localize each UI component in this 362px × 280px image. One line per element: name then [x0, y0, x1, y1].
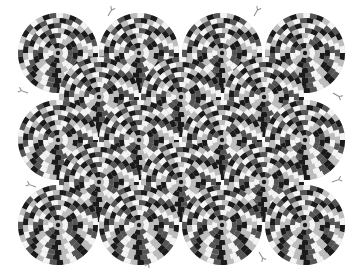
disc-center-dot: [220, 138, 224, 142]
disc-center-dot: [303, 138, 307, 142]
snake-tongue-icon: [252, 6, 261, 17]
snake-disc: [18, 185, 98, 265]
disc-center-dot: [220, 51, 224, 55]
disc-center-dot: [220, 223, 224, 227]
snake-tongue-icon: [332, 91, 343, 100]
disc-center-dot: [179, 180, 183, 184]
disc-center-dot: [137, 51, 141, 55]
disc-center-dot: [56, 138, 60, 142]
disc-center-dot: [97, 95, 101, 99]
disc-center-dot: [303, 223, 307, 227]
disc-center-dot: [137, 138, 141, 142]
disc-center-dot: [262, 180, 266, 184]
disc-center-dot: [262, 95, 266, 99]
illusion-canvas: Rotating snakes optical illusion: [0, 0, 362, 280]
snake-tongue-icon: [106, 6, 115, 17]
disc-center-dot: [303, 51, 307, 55]
snake-tongue-icon: [26, 181, 37, 189]
disc-center-dot: [56, 223, 60, 227]
snake-tongue-icon: [257, 251, 266, 262]
disc-center-dot: [137, 223, 141, 227]
disc-center-dot: [97, 180, 101, 184]
snake-tongue-icon: [331, 176, 342, 184]
rotating-snakes-illusion: [0, 0, 362, 280]
snake-disc: [182, 185, 262, 265]
snake-tongue-icon: [18, 87, 29, 95]
disc-center-dot: [179, 95, 183, 99]
snake-disc: [99, 185, 179, 265]
snake-disc: [265, 185, 345, 265]
disc-center-dot: [56, 51, 60, 55]
